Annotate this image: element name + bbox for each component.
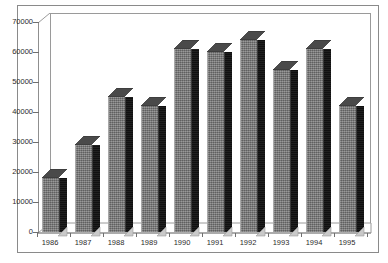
bar-base-shadow <box>256 223 266 233</box>
bar-base-shadow <box>355 223 365 233</box>
bar-base-shadow <box>124 223 134 233</box>
bar-chart: 70000 60000 50000 40000 30000 20000 1000… <box>0 0 388 263</box>
x-axis-tick-1988 <box>103 233 104 237</box>
bar-1988 <box>108 88 134 232</box>
bar-front-face <box>306 49 324 232</box>
bar-front-face <box>240 40 258 232</box>
y-axis-label-50000: 50000 <box>0 78 33 86</box>
plot-wall-top-connector <box>38 13 51 35</box>
bar-front-face <box>273 70 291 232</box>
y-axis-tick-40000 <box>33 112 39 113</box>
y-axis-tick-60000 <box>33 52 39 53</box>
bar-1989 <box>141 97 167 232</box>
y-axis-tick-50000 <box>33 82 39 83</box>
x-axis-tick-end <box>367 233 368 237</box>
y-axis-label-60000: 60000 <box>0 48 33 56</box>
bar-base-shadow <box>223 223 233 233</box>
bar-1993 <box>273 61 299 232</box>
bar-1992 <box>240 31 266 232</box>
bar-base-shadow <box>91 223 101 233</box>
x-axis-tick-1986 <box>37 233 38 237</box>
y-axis-tick-10000 <box>33 202 39 203</box>
bar-front-face <box>75 145 93 232</box>
y-axis-label-40000: 40000 <box>0 108 33 116</box>
bar-1990 <box>174 40 200 232</box>
bar-1995 <box>339 97 365 232</box>
x-axis-tick-1987 <box>70 233 71 237</box>
x-axis-tick-1990 <box>169 233 170 237</box>
y-axis-label-20000: 20000 <box>0 168 33 176</box>
x-axis-tick-1994 <box>301 233 302 237</box>
bar-front-face <box>339 106 357 232</box>
bar-1991 <box>207 43 233 232</box>
x-axis-label-1995: 1995 <box>327 238 367 247</box>
bar-base-shadow <box>58 223 68 233</box>
bar-1994 <box>306 40 332 232</box>
bar-base-shadow <box>289 223 299 233</box>
y-axis-tick-70000 <box>33 22 39 23</box>
x-axis-tick-1993 <box>268 233 269 237</box>
bar-front-face <box>108 97 126 232</box>
bar-base-shadow <box>190 223 200 233</box>
y-axis-labels: 70000 60000 50000 40000 30000 20000 1000… <box>0 0 33 263</box>
x-axis-tick-1991 <box>202 233 203 237</box>
y-axis-label-10000: 10000 <box>0 198 33 206</box>
bar-base-shadow <box>157 223 167 233</box>
x-axis-tick-1989 <box>136 233 137 237</box>
y-axis-label-0: 0 <box>0 228 33 236</box>
bar-front-face <box>207 52 225 232</box>
y-axis-label-70000: 70000 <box>0 18 33 26</box>
y-axis-tick-20000 <box>33 172 39 173</box>
y-axis-tick-0 <box>33 232 39 233</box>
bar-1987 <box>75 136 101 232</box>
y-axis-label-30000: 30000 <box>0 138 33 146</box>
bar-base-shadow <box>322 223 332 233</box>
bar-front-face <box>141 106 159 232</box>
bar-front-face <box>174 49 192 232</box>
y-axis-tick-30000 <box>33 142 39 143</box>
x-axis-tick-1995 <box>334 233 335 237</box>
x-axis-tick-1992 <box>235 233 236 237</box>
